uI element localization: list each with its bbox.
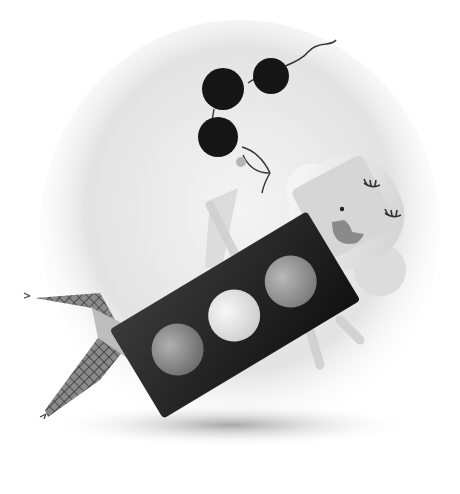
illustration-canvas [0, 0, 460, 494]
bead-2 [253, 58, 289, 94]
foot-left-icon [24, 293, 30, 298]
bead-1 [202, 68, 244, 110]
cheek-dot [340, 207, 344, 211]
foot-right-icon [40, 414, 46, 419]
ground-shadow [45, 403, 415, 447]
illustration-svg [0, 0, 460, 494]
bead-3 [198, 117, 238, 157]
bead-clasp [236, 157, 246, 167]
